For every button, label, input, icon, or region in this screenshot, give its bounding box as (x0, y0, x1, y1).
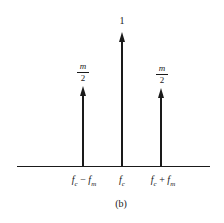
fraction-numerator: m (77, 62, 89, 72)
frequency-axis (17, 166, 210, 167)
fraction-denominator: 2 (156, 76, 168, 85)
fraction-denominator: 2 (77, 74, 89, 83)
spectral-line-upper-sideband (160, 96, 162, 167)
tick-label-upper-sideband: fc + fm (151, 174, 175, 188)
amplitude-label-carrier: 1 (118, 16, 126, 26)
amplitude-label-lower-sideband: m 2 (77, 62, 89, 83)
spectral-line-lower-sideband (82, 94, 84, 167)
figure-caption: (b) (115, 198, 127, 209)
tick-label-carrier: fc (119, 174, 125, 188)
fraction-numerator: m (156, 64, 168, 74)
tick-label-lower-sideband: fc − fm (72, 174, 96, 188)
amplitude-label-upper-sideband: m 2 (156, 64, 168, 85)
spectral-line-carrier (121, 40, 123, 167)
